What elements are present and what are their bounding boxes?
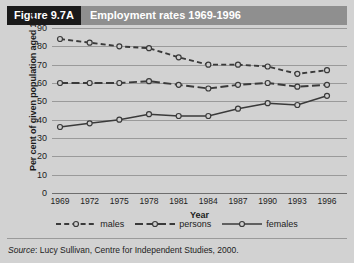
source-text: Lucy Sullivan, Centre for Independent St… <box>40 245 239 255</box>
y-tick-label: 50 <box>28 97 47 106</box>
data-point <box>58 81 63 86</box>
data-point <box>236 106 241 111</box>
source-note: Source: Lucy Sullivan, Centre for Indepe… <box>8 245 239 255</box>
chart-legend: malespersonsfemales <box>7 217 347 231</box>
data-point <box>176 55 181 60</box>
legend-entry-females[interactable]: females <box>222 219 298 229</box>
data-point <box>265 101 270 106</box>
legend-label: females <box>266 219 298 229</box>
data-point <box>325 82 330 87</box>
page-title: Employment rates 1969-1996 <box>81 6 347 25</box>
data-point <box>265 64 270 69</box>
data-point <box>87 40 92 45</box>
legend-marker-icon <box>240 222 245 227</box>
legend-swatch-females <box>222 219 262 229</box>
series-line-persons <box>60 81 327 88</box>
y-tick-label: 80 <box>28 42 47 51</box>
data-point <box>206 86 211 91</box>
data-point <box>206 114 211 119</box>
data-point <box>176 114 181 119</box>
y-tick-label: 60 <box>28 79 47 88</box>
data-point <box>325 93 330 98</box>
data-point <box>117 44 122 49</box>
series-females <box>58 93 330 129</box>
legend-swatch-males <box>56 219 96 229</box>
data-point <box>265 81 270 86</box>
y-tick-label: 90 <box>28 24 47 33</box>
legend-label: persons <box>179 219 211 229</box>
source-divider <box>7 238 347 239</box>
legend-label: males <box>100 219 124 229</box>
legend-entry-persons[interactable]: persons <box>135 219 211 229</box>
plot-area: 1969197219751978198119841987199019931996… <box>52 28 347 193</box>
y-tick-label: 20 <box>28 152 47 161</box>
data-point <box>147 79 152 84</box>
legend-marker-icon <box>153 222 158 227</box>
series-persons <box>58 79 330 91</box>
y-tick-label: 40 <box>28 116 47 125</box>
legend-swatch-persons <box>135 219 175 229</box>
data-point <box>117 117 122 122</box>
data-point <box>58 125 63 130</box>
x-tick-label: 1996 <box>310 197 344 206</box>
data-point <box>295 103 300 108</box>
figure-header: Figure 9.7A Employment rates 1969-1996 <box>7 6 347 25</box>
series-line-males <box>60 39 327 74</box>
source-prefix: Source <box>8 245 35 255</box>
series-lines <box>52 28 347 193</box>
chart-area: Per cent of given population aged 15+ 90… <box>7 28 347 233</box>
data-point <box>87 81 92 86</box>
y-tick-label: 10 <box>28 171 47 180</box>
data-point <box>206 62 211 67</box>
data-point <box>147 112 152 117</box>
data-point <box>236 82 241 87</box>
y-tick-label: 30 <box>28 134 47 143</box>
figure-container: Figure 9.7A Employment rates 1969-1996 P… <box>0 0 354 263</box>
series-line-females <box>60 96 327 127</box>
data-point <box>117 81 122 86</box>
legend-marker-icon <box>74 222 79 227</box>
data-point <box>295 71 300 76</box>
y-tick-label: 70 <box>28 61 47 70</box>
series-males <box>58 37 330 77</box>
data-point <box>147 46 152 51</box>
data-point <box>295 84 300 89</box>
data-point <box>87 121 92 126</box>
data-point <box>236 62 241 67</box>
gridline <box>52 193 347 194</box>
plot-wrapper: 9080706050403020100 19691972197519781981… <box>28 28 347 233</box>
data-point <box>176 82 181 87</box>
legend-entry-males[interactable]: males <box>56 219 124 229</box>
data-point <box>325 68 330 73</box>
data-point <box>58 37 63 42</box>
